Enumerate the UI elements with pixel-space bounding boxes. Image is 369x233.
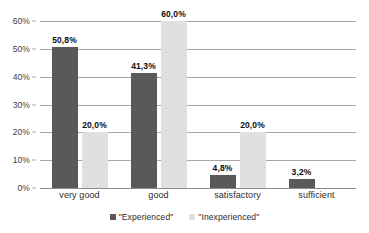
bar-value-label-inexperienced-0: 20,0% xyxy=(82,120,107,130)
bar-experienced-1[interactable]: 41,3% xyxy=(131,73,157,188)
bar-value-label-experienced-0: 50,8% xyxy=(52,35,77,45)
bar-slot-3-1 xyxy=(319,21,345,188)
bar-value-label-inexperienced-1: 60,0% xyxy=(161,9,186,19)
bar-group-2: 4,8%20,0% xyxy=(198,21,277,188)
y-tick-mark-50 xyxy=(32,48,36,49)
y-tick-mark-20 xyxy=(32,132,36,133)
y-tick-mark-30 xyxy=(32,104,36,105)
bar-inexperienced-2[interactable]: 20,0% xyxy=(240,132,266,188)
legend-label-inexperienced: "Inexperienced" xyxy=(198,212,259,222)
bar-slot-0-0: 50,8% xyxy=(52,21,78,188)
bar-inexperienced-1[interactable]: 60,0% xyxy=(161,21,187,188)
y-tick-mark-40 xyxy=(32,76,36,77)
y-tick-label-10: 10% xyxy=(13,155,30,165)
bar-group-3: 3,2% xyxy=(277,21,356,188)
bar-experienced-0[interactable]: 50,8% xyxy=(52,47,78,188)
bar-group-1: 41,3%60,0% xyxy=(119,21,198,188)
legend-label-experienced: "Experienced" xyxy=(119,212,174,222)
y-tick-label-20: 20% xyxy=(13,127,30,137)
bar-slot-1-0: 41,3% xyxy=(131,21,157,188)
bar-group-0: 50,8%20,0% xyxy=(40,21,119,188)
y-axis: 60% 50% 40% 30% 20% 10% 0% xyxy=(0,21,36,188)
legend-swatch-icon-inexperienced xyxy=(189,214,195,220)
x-axis-category-labels: very good good satisfactory sufficient xyxy=(40,190,356,200)
x-category-label-1: good xyxy=(119,190,198,200)
bar-inexperienced-0[interactable]: 20,0% xyxy=(82,132,108,188)
x-category-label-2: satisfactory xyxy=(198,190,277,200)
bar-value-label-inexperienced-2: 20,0% xyxy=(240,120,265,130)
bar-groups: 50,8%20,0%41,3%60,0%4,8%20,0%3,2% xyxy=(40,21,356,188)
bar-value-label-experienced-3: 3,2% xyxy=(292,167,312,177)
legend-swatch-icon-experienced xyxy=(110,214,116,220)
y-tick-label-30: 30% xyxy=(13,100,30,110)
bar-value-label-experienced-2: 4,8% xyxy=(213,163,233,173)
bar-experienced-2[interactable]: 4,8% xyxy=(210,175,236,188)
y-tick-mark-0 xyxy=(32,188,36,189)
y-tick-label-0: 0% xyxy=(18,183,31,193)
y-tick-label-60: 60% xyxy=(13,16,30,26)
bar-slot-2-0: 4,8% xyxy=(210,21,236,188)
bar-slot-3-0: 3,2% xyxy=(289,21,315,188)
bar-experienced-3[interactable]: 3,2% xyxy=(289,179,315,188)
y-tick-mark-10 xyxy=(32,160,36,161)
x-category-label-0: very good xyxy=(40,190,119,200)
bar-value-label-experienced-1: 41,3% xyxy=(131,61,156,71)
chart-legend: "Experienced" "Inexperienced" xyxy=(0,212,369,222)
x-category-label-3: sufficient xyxy=(277,190,356,200)
legend-item-inexperienced[interactable]: "Inexperienced" xyxy=(189,212,259,222)
bar-chart: 60% 50% 40% 30% 20% 10% 0% 50,8%20,0%41,… xyxy=(0,0,369,233)
gridline-0 xyxy=(40,188,356,189)
y-tick-label-50: 50% xyxy=(13,44,30,54)
bar-slot-1-1: 60,0% xyxy=(161,21,187,188)
bar-slot-0-1: 20,0% xyxy=(82,21,108,188)
legend-item-experienced[interactable]: "Experienced" xyxy=(110,212,174,222)
y-tick-mark-60 xyxy=(32,21,36,22)
bar-slot-2-1: 20,0% xyxy=(240,21,266,188)
y-tick-label-40: 40% xyxy=(13,72,30,82)
